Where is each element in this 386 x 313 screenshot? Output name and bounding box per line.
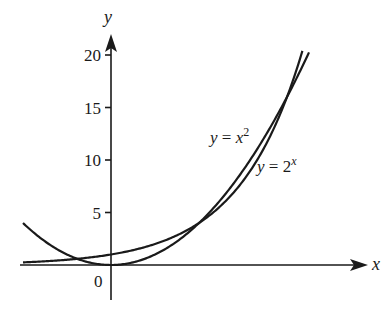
curve-label-x-squared: y = x2 [208,125,249,147]
curve-label-two-power-x: y = 2x [255,154,297,176]
y-tick-label: 5 [93,204,102,223]
y-axis-label: y [102,7,112,27]
x-axis-label: x [371,254,380,274]
y-tick-label: 15 [84,99,101,118]
origin-label: 0 [94,272,103,291]
y-ticks: 5101520 [84,46,111,223]
y-tick-label: 20 [84,46,101,65]
axes [20,44,358,300]
chart-canvas: 5101520 y x 0 y = x2 y = 2x [0,0,386,313]
y-tick-label: 10 [84,151,101,170]
